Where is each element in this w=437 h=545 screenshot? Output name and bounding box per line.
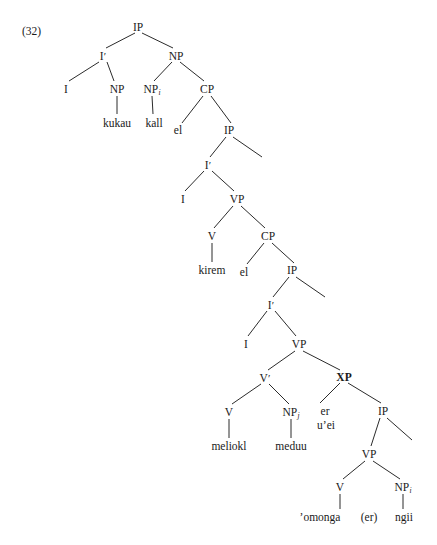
node-label: (er) xyxy=(361,511,378,523)
node-label: I xyxy=(181,193,185,205)
node-label: V xyxy=(259,372,267,384)
tree-branch-ip2-right2 xyxy=(233,137,262,157)
tree-branch-ibar2-i2 xyxy=(185,171,204,191)
node-label: VP xyxy=(230,193,245,205)
tree-branch-ip3-ibar3 xyxy=(273,277,289,297)
category-node-v3: V xyxy=(336,482,344,494)
tree-branch-ip4-vp3 xyxy=(371,418,380,446)
node-label: ngii xyxy=(395,511,413,523)
terminal-node-meliokl: meliokl xyxy=(211,441,246,453)
node-label: NP xyxy=(394,481,409,493)
category-node-vp2: VP xyxy=(292,339,307,351)
category-node-ip4: IP xyxy=(378,406,388,418)
category-node-vbar1: V′ xyxy=(259,373,270,385)
tree-branch-ibar1-np2 xyxy=(107,62,114,81)
category-node-np3: NPi xyxy=(143,84,160,96)
terminal-node-kall: kall xyxy=(145,118,162,130)
tree-branch-xp1-erleft xyxy=(320,383,340,403)
node-subscript: i xyxy=(410,486,412,495)
node-label: kall xyxy=(145,117,162,129)
node-label: VP xyxy=(362,448,377,460)
category-node-vp3: VP xyxy=(362,449,377,461)
node-label: NP xyxy=(143,83,158,95)
tree-branch-vp2-xp1 xyxy=(303,351,340,370)
tree-branch-np1-np3 xyxy=(154,62,172,81)
category-node-np4: NPj xyxy=(282,407,299,419)
node-label: CP xyxy=(261,230,275,242)
tree-branch-ibar3-i3 xyxy=(248,311,267,336)
prime-mark: ′ xyxy=(104,50,106,62)
node-label: u’ei xyxy=(317,419,335,431)
category-node-cp2: CP xyxy=(261,231,275,243)
prime-mark: ′ xyxy=(272,299,274,311)
terminal-node-er1: er xyxy=(321,406,330,418)
cutoff-text-above xyxy=(0,0,437,5)
tree-branch-vp1-cp2 xyxy=(241,206,265,228)
node-subscript: i xyxy=(159,88,161,97)
tree-branch-ibar1-i1 xyxy=(69,62,99,81)
tree-branch-ibar2-vp1 xyxy=(212,171,234,191)
tree-branch-vp3-np5 xyxy=(373,461,400,479)
node-label: IP xyxy=(133,21,143,33)
node-label: kirem xyxy=(199,264,226,276)
node-label: kukau xyxy=(103,117,131,129)
node-label: el xyxy=(174,124,182,136)
node-label: ’omonga xyxy=(300,511,341,523)
category-node-cp1: CP xyxy=(200,84,214,96)
tree-branch-cp1-el1 xyxy=(182,96,203,123)
tree-branch-vbar1-v2 xyxy=(232,384,261,404)
category-node-ip1: IP xyxy=(133,22,143,34)
tree-branch-vp1-v1 xyxy=(214,206,233,228)
node-label: NP xyxy=(282,406,297,418)
terminal-node-kukau: kukau xyxy=(103,118,131,130)
category-node-i1: I xyxy=(64,84,68,96)
tree-branch-ip2-ibar2 xyxy=(210,137,226,157)
example-number-label: (32) xyxy=(22,25,41,37)
category-node-vp1: VP xyxy=(230,194,245,206)
tree-branch-ip3-right3 xyxy=(296,277,325,297)
node-label: V xyxy=(336,481,344,493)
terminal-node-meduu: meduu xyxy=(275,441,306,453)
category-node-ip3: IP xyxy=(287,265,297,277)
tree-branch-np1-cp1 xyxy=(180,62,204,81)
category-node-ibar2: I′ xyxy=(205,160,212,172)
terminal-node-uei: u’ei xyxy=(317,420,335,432)
node-label: VP xyxy=(292,338,307,350)
tree-branch-xp1-ip4 xyxy=(348,383,381,403)
tree-branch-np3-kall xyxy=(152,96,153,114)
node-label: CP xyxy=(200,83,214,95)
category-node-np5: NPi xyxy=(394,482,411,494)
category-node-xp1: XP xyxy=(336,372,351,384)
node-label: I xyxy=(244,338,248,350)
category-node-v2: V xyxy=(225,407,233,419)
node-label: meduu xyxy=(275,440,306,452)
node-label: I xyxy=(64,83,68,95)
category-node-ip2: IP xyxy=(224,125,234,137)
node-label: IP xyxy=(287,264,297,276)
category-node-ibar3: I′ xyxy=(268,300,275,312)
prime-mark: ′ xyxy=(268,372,270,384)
category-node-i2: I xyxy=(181,194,185,206)
category-node-ibar1: I′ xyxy=(100,51,107,63)
tree-branch-ip1-np1 xyxy=(142,33,173,48)
tree-branch-ibar3-vp2 xyxy=(275,311,296,336)
tree-branch-ip4-right4 xyxy=(387,418,412,440)
syntax-tree-figure: (32) IPI′NPINPNPiCPkukaukallelIPI′IVPVCP… xyxy=(0,0,437,545)
node-label: meliokl xyxy=(211,440,246,452)
tree-branch-vp2-vbar1 xyxy=(268,351,295,370)
node-label: V xyxy=(225,406,233,418)
node-label: el xyxy=(240,266,248,278)
category-node-i3: I xyxy=(244,339,248,351)
node-label: er xyxy=(321,405,330,417)
terminal-node-kirem: kirem xyxy=(199,265,226,277)
node-subscript: j xyxy=(298,411,300,420)
tree-branch-vp3-v3 xyxy=(343,461,365,479)
tree-branch-cp2-el2 xyxy=(247,243,264,264)
terminal-node-el1: el xyxy=(174,125,182,137)
prime-mark: ′ xyxy=(209,159,211,171)
tree-branch-cp2-ip3 xyxy=(272,243,294,263)
node-label: XP xyxy=(336,371,351,383)
node-label: IP xyxy=(378,405,388,417)
node-label: V xyxy=(208,230,216,242)
tree-branch-ip1-ibar1 xyxy=(106,33,135,48)
